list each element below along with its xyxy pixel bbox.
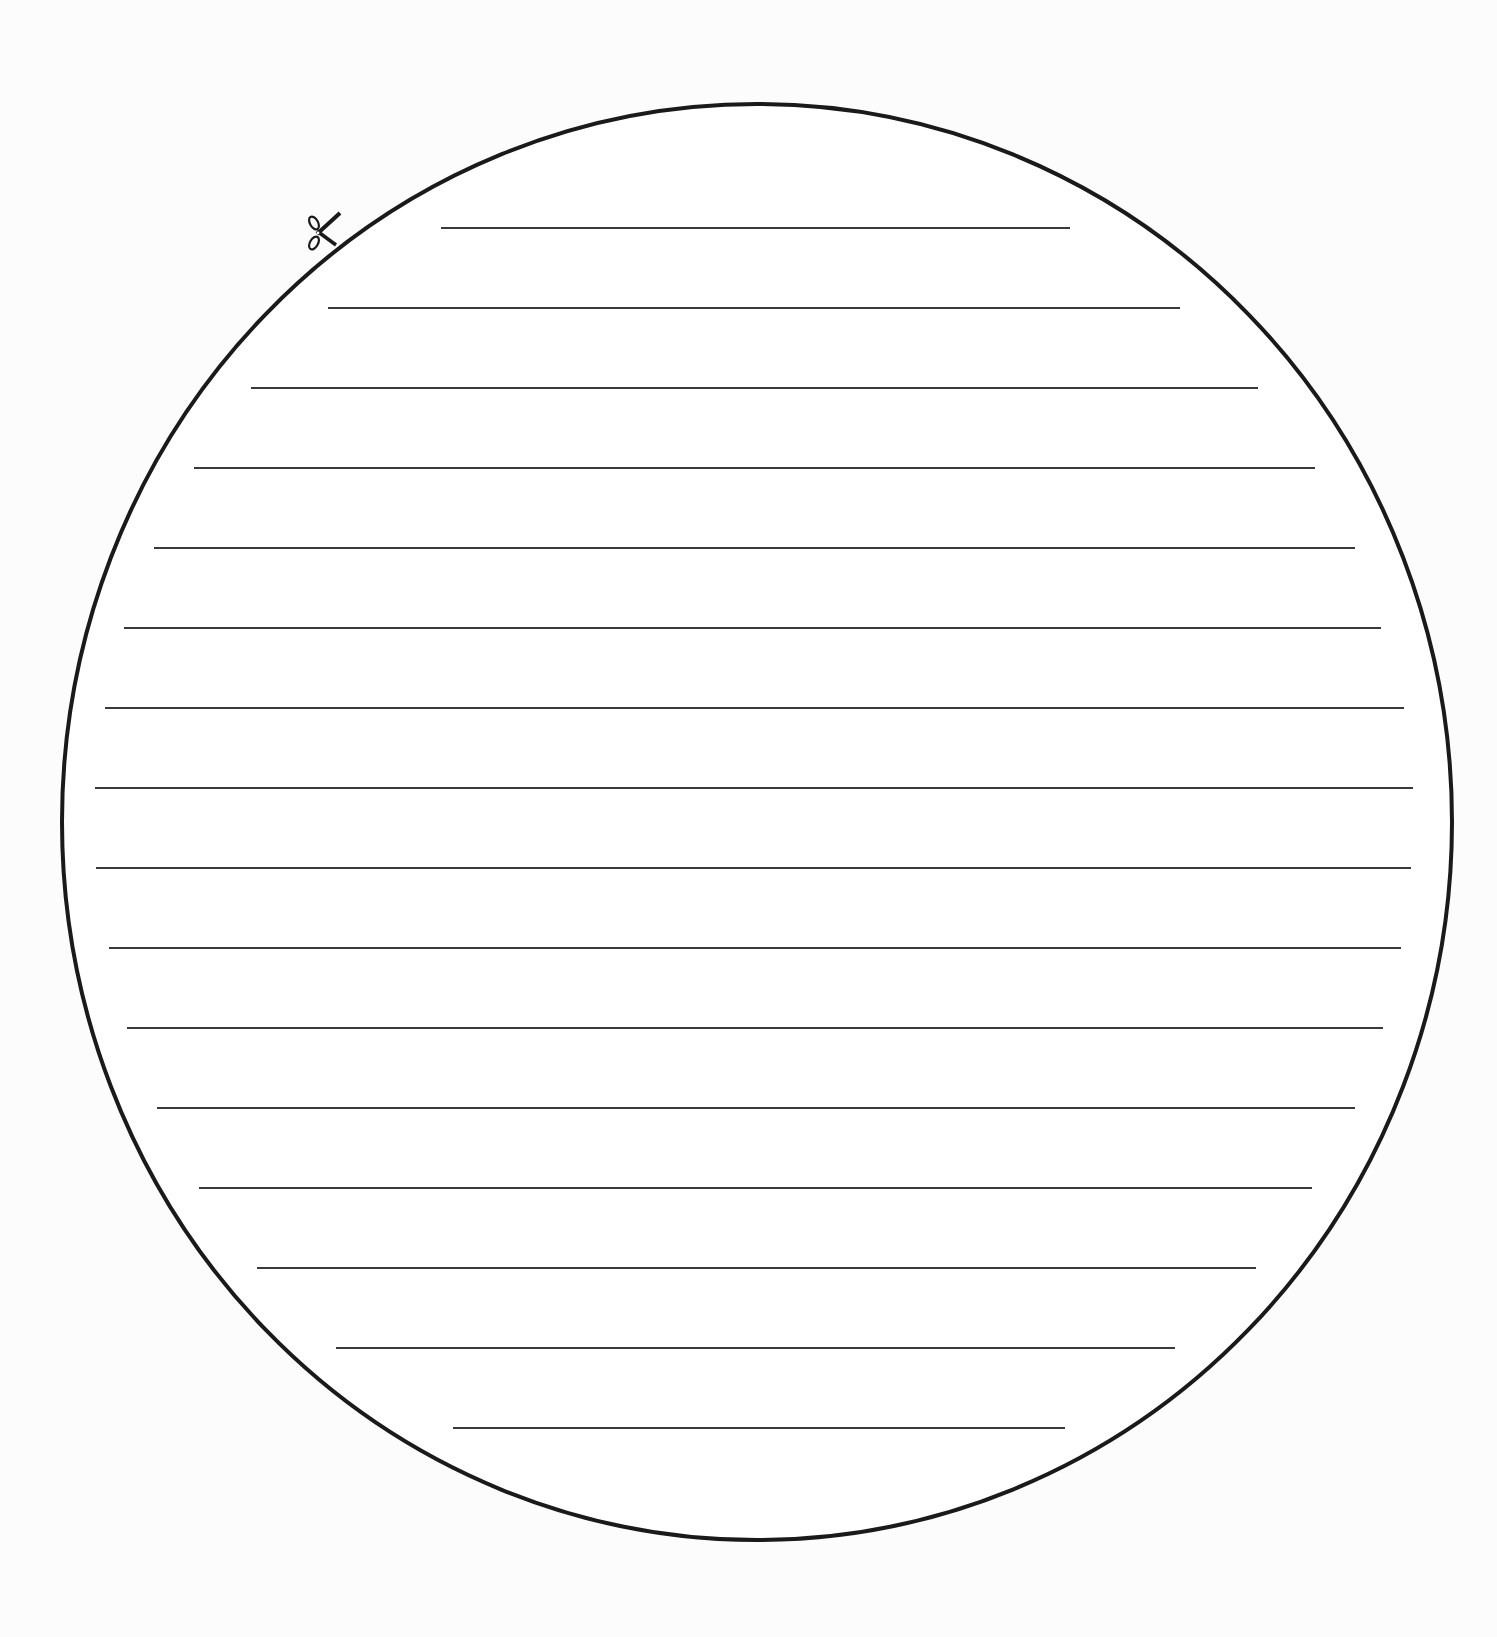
scissors-loop-upper [307,215,321,231]
scissors-blade-upper [317,213,340,234]
scissors-pivot [317,232,320,235]
cut-out-circle-outline [62,104,1452,1540]
scissors-loop-lower [307,235,321,251]
scissors-blade-lower [317,231,336,245]
lined-circle-template [0,0,1497,1637]
scissors-icon [307,213,340,251]
printable-sheet: Lined circle writing template [0,0,1497,1637]
